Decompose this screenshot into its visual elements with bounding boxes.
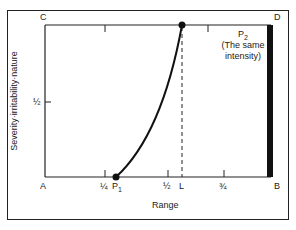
corner-a-label: A (40, 181, 46, 191)
y-tick-half-label: ½ (33, 97, 41, 107)
p1-point (113, 174, 120, 181)
p2-title: P2 (213, 29, 273, 40)
y-axis-label: Severity·irritability·nature (9, 51, 19, 151)
x-tick-threequarter-label: ¾ (219, 181, 227, 191)
p2-annotation: P2 (The same intensity) (213, 29, 273, 62)
x-axis-label: Range (152, 200, 179, 210)
x-tick-quarter-label: ¼ (100, 181, 108, 191)
p1-label: P1 (112, 181, 122, 192)
p2-line1: (The same (213, 40, 273, 51)
x-tick-half-label: ½ (163, 181, 171, 191)
corner-d-label: D (274, 12, 281, 22)
corner-b-label: B (274, 181, 280, 191)
top-point (179, 22, 186, 29)
p1-curve (116, 25, 182, 177)
corner-c-label: C (40, 12, 47, 22)
l-label: L (179, 181, 184, 191)
p2-line2: intensity) (213, 51, 273, 62)
